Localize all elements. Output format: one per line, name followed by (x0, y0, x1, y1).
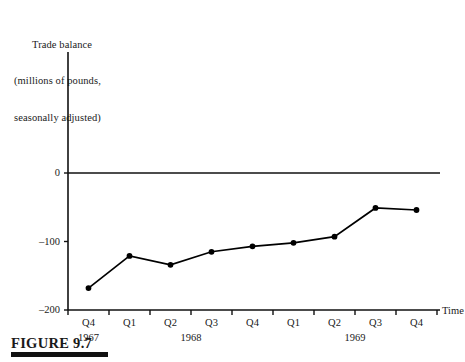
x-axis-label: Time (442, 305, 464, 316)
x-axis-tick-label: Q2 (315, 317, 355, 328)
x-axis-tick-label: Q4 (69, 317, 109, 328)
figure-caption-rule (11, 352, 108, 357)
x-axis-tick-label: Q2 (151, 317, 191, 328)
x-axis-year-label: 1969 (325, 332, 385, 343)
figure-caption: FIGURE 9.7 (11, 335, 108, 357)
x-axis-tick-label: Q4 (233, 317, 273, 328)
y-axis-tick-label: –200 (20, 304, 60, 315)
x-axis-tick-label: Q4 (397, 317, 437, 328)
chart-plot-area (0, 0, 465, 362)
x-axis-tick-label: Q1 (110, 317, 150, 328)
x-axis-year-label: 1968 (161, 332, 221, 343)
y-axis-tick-label: –100 (20, 236, 60, 247)
x-axis-tick-label: Q3 (356, 317, 396, 328)
chart-axes (64, 52, 440, 315)
y-axis-tick-label: 0 (20, 167, 60, 178)
x-axis-tick-label: Q3 (192, 317, 232, 328)
figure-caption-text: FIGURE 9.7 (11, 335, 108, 351)
figure-container: Trade balance (millions of pounds, seaso… (0, 0, 465, 362)
x-axis-tick-label: Q1 (274, 317, 314, 328)
chart-data-markers (86, 205, 420, 291)
